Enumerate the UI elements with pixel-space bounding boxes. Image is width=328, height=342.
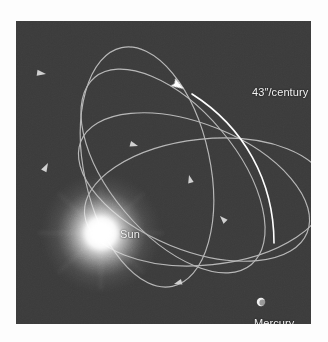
space-background-panel: Sun Mercury 43″/century: [16, 21, 311, 324]
mercury-label: Mercury: [254, 318, 294, 324]
sun-label: Sun: [120, 229, 140, 240]
mercury-shadow: [259, 299, 265, 305]
figure-root: Sun Mercury 43″/century: [0, 0, 328, 342]
orbit-arrowhead-5: [218, 214, 228, 224]
precession-rate-label: 43″/century: [252, 87, 308, 98]
orbit-arrowhead-1: [37, 70, 47, 77]
orbit-diagram-svg: [16, 21, 311, 324]
orbit-arrowhead-3: [130, 141, 139, 149]
sun-body: [38, 171, 164, 295]
mercury-body: [257, 298, 266, 306]
orbit-arrowhead-2: [41, 162, 51, 173]
orbit-arrowhead-4: [186, 174, 193, 183]
precession-arrow-shaft: [192, 94, 274, 243]
